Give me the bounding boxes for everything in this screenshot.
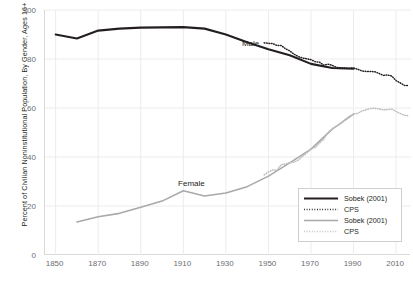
annotation-female: Female <box>178 179 205 188</box>
legend-item[interactable]: CPS <box>303 226 397 237</box>
annotation-male: Male <box>242 39 259 48</box>
legend-label: CPS <box>344 204 359 215</box>
legend-label: CPS <box>344 226 359 237</box>
legend: Sobek (2001)CPSSobek (2001)CPS <box>298 188 402 242</box>
legend-label: Sobek (2001) <box>344 215 387 226</box>
legend-swatch-female-cps <box>303 226 339 237</box>
legend-swatch-male-sobek <box>303 193 339 204</box>
legend-item[interactable]: CPS <box>303 204 397 215</box>
legend-swatch-female-sobek <box>303 215 339 226</box>
chart-container: Percent of Civilian Noninstitutional Pop… <box>0 0 413 282</box>
legend-item[interactable]: Sobek (2001) <box>303 215 397 226</box>
legend-swatch-male-cps <box>303 204 339 215</box>
legend-item[interactable]: Sobek (2001) <box>303 193 397 204</box>
legend-label: Sobek (2001) <box>344 193 387 204</box>
